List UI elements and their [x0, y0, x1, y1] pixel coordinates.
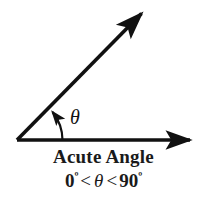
- angle-arc: [53, 112, 63, 140]
- acute-angle-figure: θ Acute Angle 0º<θ<90º: [0, 0, 207, 198]
- figure-title: Acute Angle: [0, 146, 207, 168]
- range-theta-symbol: θ: [93, 170, 104, 191]
- angle-range-caption: 0º<θ<90º: [0, 170, 207, 192]
- theta-label: θ: [70, 106, 80, 129]
- less-than-right: <: [104, 170, 119, 191]
- range-max-value: 90: [119, 170, 138, 191]
- range-min-value: 0: [65, 170, 75, 191]
- less-than-left: <: [78, 170, 93, 191]
- angle-diagram-svg: [0, 0, 207, 198]
- degree-symbol-max: º: [138, 169, 142, 183]
